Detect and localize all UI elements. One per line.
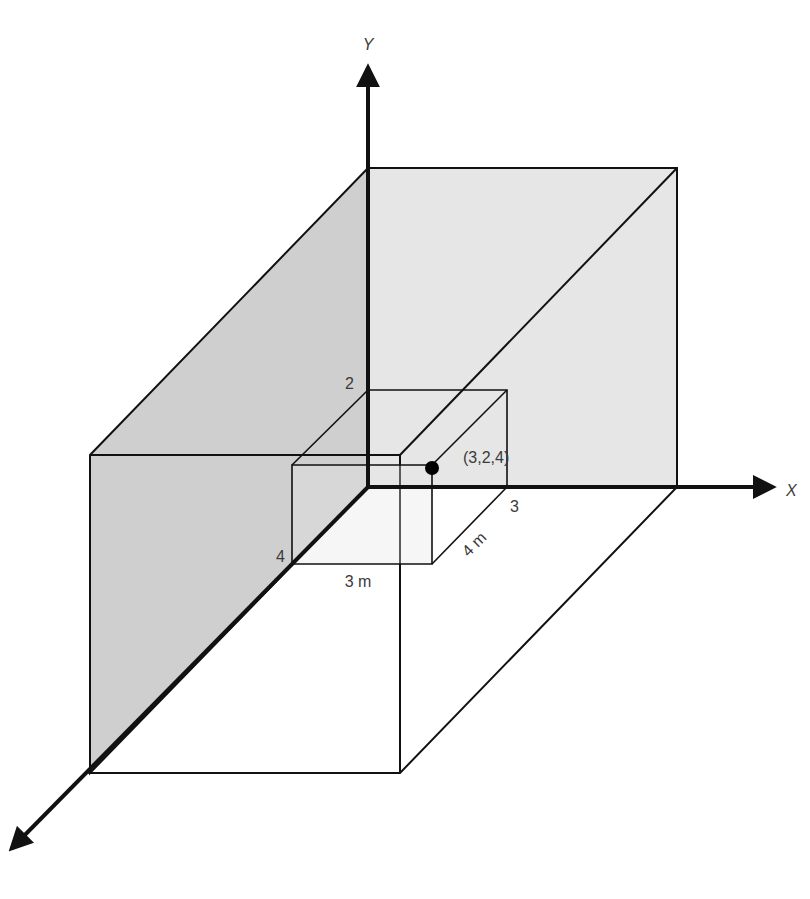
- x-axis-label: X: [785, 482, 798, 499]
- coordinate-diagram: Y X 2 3 4 3 m 4 m (3,2,4): [0, 0, 810, 899]
- point-marker: [425, 461, 439, 475]
- y-tick-label: 2: [345, 375, 354, 392]
- x-tick-label: 3: [510, 498, 519, 515]
- small-box-front-face: [292, 465, 432, 564]
- z-tick-label: 4: [276, 548, 285, 565]
- width-dimension-label: 3 m: [345, 573, 372, 590]
- y-axis-label: Y: [363, 36, 375, 53]
- point-coordinate-label: (3,2,4): [463, 449, 509, 466]
